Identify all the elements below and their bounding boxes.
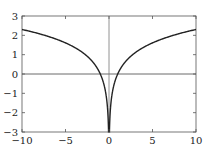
- y-tick-label: 1: [12, 49, 18, 60]
- tick-labels: −10−505103210−1−2−3: [3, 11, 202, 147]
- chart: −10−505103210−1−2−3: [0, 0, 209, 152]
- reference-lines: [22, 16, 196, 132]
- y-tick-label: −2: [3, 107, 18, 118]
- y-tick-label: −3: [3, 127, 18, 138]
- y-tick-label: 2: [12, 30, 18, 41]
- y-tick-label: 0: [12, 69, 18, 80]
- curve-left-branch: [22, 29, 109, 132]
- x-tick-label: −5: [58, 135, 73, 146]
- curve-right-branch: [109, 29, 196, 132]
- x-tick-label: 10: [190, 135, 203, 146]
- x-tick-label: 0: [106, 135, 112, 146]
- x-tick-label: 5: [149, 135, 155, 146]
- y-tick-label: 3: [12, 11, 18, 22]
- y-tick-label: −1: [3, 88, 18, 99]
